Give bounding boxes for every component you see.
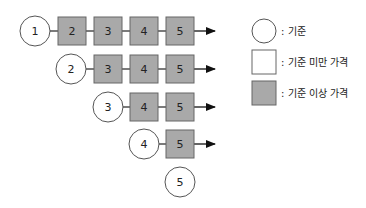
legend-gray-square-icon: [252, 81, 276, 105]
svg-text:2: 2: [68, 63, 75, 76]
legend-white-square-icon: [252, 50, 276, 74]
comparison-diagram: 1 2 3 4 5 2 3 4 5 3 4 5: [0, 0, 366, 208]
row-1: 1 2 3 4 5: [20, 16, 215, 46]
svg-text:5: 5: [177, 101, 184, 114]
legend-label-below: : 기준 미만 가격: [281, 56, 348, 68]
base-label: 1: [32, 25, 39, 38]
svg-text:4: 4: [141, 101, 148, 114]
legend-circle-icon: [252, 19, 276, 43]
row-4: 4 5: [129, 129, 215, 159]
legend-label-base: : 기준: [281, 26, 306, 37]
row-2: 2 3 4 5: [56, 54, 215, 84]
legend-label-above: : 기준 이상 가격: [281, 87, 348, 99]
svg-text:3: 3: [105, 25, 112, 38]
svg-text:2: 2: [69, 25, 76, 38]
svg-text:5: 5: [177, 25, 184, 38]
svg-text:5: 5: [177, 63, 184, 76]
svg-text:4: 4: [141, 138, 148, 151]
svg-text:5: 5: [177, 138, 184, 151]
svg-text:4: 4: [141, 63, 148, 76]
svg-text:3: 3: [105, 63, 112, 76]
row-3: 3 4 5: [93, 92, 215, 122]
row-5: 5: [165, 167, 195, 197]
legend: : 기준 : 기준 미만 가격 : 기준 이상 가격: [252, 19, 348, 105]
svg-text:5: 5: [177, 176, 184, 189]
svg-text:4: 4: [141, 25, 148, 38]
svg-text:3: 3: [105, 101, 112, 114]
